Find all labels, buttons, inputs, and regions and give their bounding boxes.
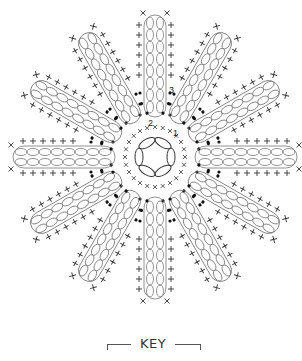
key-bracket-right <box>175 344 201 345</box>
round-label-1: 1 <box>173 128 178 138</box>
petal <box>159 21 245 132</box>
center-ring <box>135 135 175 179</box>
crochet-flower-diagram <box>0 0 302 320</box>
key-bracket-left <box>107 344 131 345</box>
key-section: KEY <box>0 336 302 356</box>
petal <box>136 11 174 118</box>
petal <box>65 182 151 293</box>
petal <box>195 138 302 176</box>
round-label-3: 3 <box>169 85 174 95</box>
petal <box>180 161 291 247</box>
petal <box>136 197 174 304</box>
petal <box>65 21 151 132</box>
petal <box>9 138 116 176</box>
key-title: KEY <box>140 336 166 351</box>
petal <box>19 67 130 153</box>
round-label-2: 2 <box>148 118 153 128</box>
